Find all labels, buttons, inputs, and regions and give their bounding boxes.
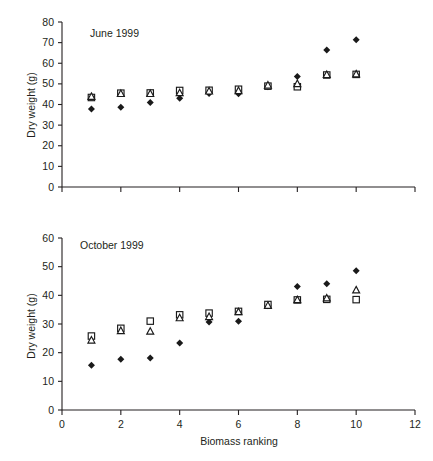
x-tick-label: 0 bbox=[59, 418, 65, 430]
chart-top-svg: 01020304050607080 June 1999 Dry weight (… bbox=[0, 0, 433, 228]
marker-diamond bbox=[88, 362, 95, 369]
y-axis-title-bottom: Dry weight (g) bbox=[25, 293, 37, 358]
y-tick-label: 20 bbox=[42, 139, 54, 151]
y-tick-label: 30 bbox=[42, 119, 54, 131]
y-tick-label: 40 bbox=[42, 98, 54, 110]
y-tick-label: 0 bbox=[48, 181, 54, 193]
y-tick-label: 60 bbox=[42, 232, 54, 244]
data-points-bottom bbox=[88, 267, 360, 369]
marker-diamond bbox=[235, 318, 242, 325]
y-tick-label: 70 bbox=[42, 36, 54, 48]
x-tick-label: 2 bbox=[118, 418, 124, 430]
marker-diamond bbox=[176, 339, 183, 346]
panel-title-bottom: October 1999 bbox=[80, 239, 144, 251]
marker-square bbox=[353, 296, 359, 302]
tick-labels-bottom: 0102030405060024681012 bbox=[42, 232, 421, 430]
marker-diamond bbox=[117, 356, 124, 363]
chart-bottom-svg: 0102030405060024681012 October 1999 Dry … bbox=[0, 216, 433, 461]
axes-bottom bbox=[58, 238, 415, 415]
x-tick-label: 12 bbox=[409, 418, 421, 430]
y-tick-label: 50 bbox=[42, 260, 54, 272]
marker-triangle bbox=[147, 328, 154, 335]
x-tick-label: 8 bbox=[294, 418, 300, 430]
panel-title-top: June 1999 bbox=[90, 27, 139, 39]
x-tick-label: 10 bbox=[350, 418, 362, 430]
marker-diamond bbox=[294, 283, 301, 290]
y-tick-label: 60 bbox=[42, 57, 54, 69]
marker-triangle bbox=[353, 286, 360, 293]
y-tick-label: 10 bbox=[42, 160, 54, 172]
figure-two-panel-scatter: 01020304050607080 June 1999 Dry weight (… bbox=[0, 0, 433, 461]
marker-diamond bbox=[323, 280, 330, 287]
y-tick-label: 30 bbox=[42, 318, 54, 330]
y-tick-label: 0 bbox=[48, 404, 54, 416]
y-axis-title-top: Dry weight (g) bbox=[25, 72, 37, 137]
panel-october-1999: 0102030405060024681012 October 1999 Dry … bbox=[0, 216, 433, 461]
data-points-top bbox=[88, 36, 360, 112]
tick-labels-top: 01020304050607080 bbox=[42, 16, 54, 193]
y-tick-label: 80 bbox=[42, 16, 54, 28]
marker-diamond bbox=[117, 104, 124, 111]
y-tick-label: 10 bbox=[42, 375, 54, 387]
x-tick-label: 6 bbox=[236, 418, 242, 430]
y-tick-label: 20 bbox=[42, 346, 54, 358]
marker-diamond bbox=[323, 47, 330, 54]
marker-diamond bbox=[353, 267, 360, 274]
axes-top bbox=[58, 22, 415, 192]
x-tick-label: 4 bbox=[177, 418, 183, 430]
y-tick-label: 50 bbox=[42, 77, 54, 89]
marker-diamond bbox=[353, 36, 360, 43]
y-tick-label: 40 bbox=[42, 289, 54, 301]
marker-diamond bbox=[147, 355, 154, 362]
marker-square bbox=[147, 318, 153, 324]
x-axis-title-bottom: Biomass ranking bbox=[200, 435, 278, 447]
panel-june-1999: 01020304050607080 June 1999 Dry weight (… bbox=[0, 0, 433, 228]
marker-diamond bbox=[88, 106, 95, 113]
marker-diamond bbox=[147, 99, 154, 106]
